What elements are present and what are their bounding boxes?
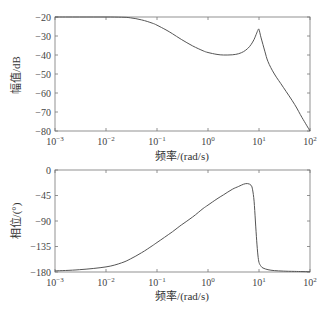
phase-y-tick-label: −135: [30, 241, 51, 252]
magnitude-y-tick-label: −60: [35, 88, 51, 99]
phase-plot: 0−45−90−135−180 10−310−210−1100101102 相位…: [9, 165, 317, 304]
magnitude-axes-frame: [55, 17, 310, 131]
magnitude-x-tick-label: 102: [303, 135, 317, 147]
phase-y-axis-title: 相位/(°): [9, 202, 23, 239]
magnitude-x-tick-label: 10−3: [46, 135, 64, 147]
magnitude-x-tick-label: 101: [252, 135, 266, 147]
phase-x-tick-label: 10−3: [46, 276, 64, 288]
magnitude-y-axis-title: 幅值/dB: [10, 56, 22, 94]
magnitude-y-ticks: −20−30−40−50−60−70−80: [35, 12, 310, 137]
phase-x-tick-label: 102: [303, 276, 317, 288]
magnitude-x-axis-title: 频率/(rad/s): [155, 149, 209, 163]
bode-plot: −20−30−40−50−60−70−80 10−310−210−1100101…: [0, 0, 328, 319]
phase-axes-frame: [55, 170, 310, 272]
phase-y-tick-label: −90: [35, 216, 51, 227]
magnitude-curve: [55, 17, 310, 131]
magnitude-y-tick-label: −30: [35, 31, 51, 42]
phase-y-tick-label: −45: [35, 190, 51, 201]
phase-x-axis-title: 频率/(rad/s): [155, 289, 209, 303]
magnitude-y-tick-label: −50: [35, 69, 51, 80]
phase-x-tick-label: 10−1: [148, 276, 166, 288]
phase-y-tick-label: −180: [30, 267, 51, 278]
magnitude-y-tick-label: −40: [35, 50, 51, 61]
magnitude-y-tick-label: −20: [35, 12, 51, 23]
magnitude-x-tick-label: 10−2: [97, 135, 115, 147]
phase-curve: [55, 184, 310, 272]
magnitude-x-tick-label: 10−1: [148, 135, 166, 147]
phase-y-ticks: 0−45−90−135−180: [30, 165, 310, 278]
phase-x-tick-label: 101: [252, 276, 266, 288]
magnitude-plot: −20−30−40−50−60−70−80 10−310−210−1100101…: [10, 12, 317, 164]
magnitude-x-tick-label: 100: [201, 135, 215, 147]
magnitude-x-ticks: 10−310−210−1100101102: [46, 17, 317, 147]
magnitude-y-tick-label: −70: [35, 107, 51, 118]
phase-x-tick-label: 10−2: [97, 276, 115, 288]
magnitude-y-tick-label: −80: [35, 126, 51, 137]
phase-y-tick-label: 0: [46, 165, 51, 176]
phase-x-tick-label: 100: [201, 276, 215, 288]
